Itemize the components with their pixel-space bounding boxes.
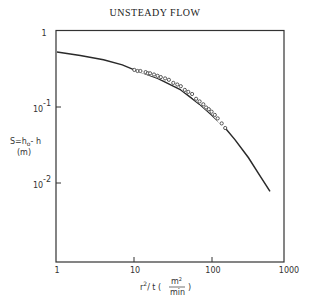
data-point xyxy=(167,78,170,81)
data-point xyxy=(224,126,227,129)
data-point xyxy=(220,122,223,125)
x-unit-denominator: min xyxy=(170,288,185,297)
x-tick-label: 10 xyxy=(130,266,140,275)
y-tick-label: 1 xyxy=(41,29,46,38)
theoretical-curve xyxy=(57,52,270,191)
data-point xyxy=(156,74,159,77)
x-unit-close: ) xyxy=(188,283,191,292)
data-point xyxy=(207,108,210,111)
chart-canvas: 1 10 100 1000 1 10 -1 10 -2 S=ho- h (m) … xyxy=(0,0,310,301)
x-tick-label: 1 xyxy=(54,266,59,275)
x-axis-label: r2/ t ( xyxy=(140,280,161,292)
data-point xyxy=(159,76,162,79)
x-tick-label: 100 xyxy=(205,266,220,275)
data-point xyxy=(172,81,175,84)
data-point xyxy=(191,92,194,95)
data-point xyxy=(183,88,186,91)
data-point xyxy=(210,110,213,113)
x-unit-numerator: m2 xyxy=(171,276,182,286)
data-point xyxy=(152,73,155,76)
plot-frame xyxy=(56,31,284,263)
data-point xyxy=(198,100,201,103)
data-point xyxy=(149,72,152,75)
data-point xyxy=(195,97,198,100)
observed-data-points xyxy=(133,68,227,129)
data-point xyxy=(176,83,179,86)
data-point xyxy=(213,113,216,116)
data-point xyxy=(133,68,136,71)
x-tick-label: 1000 xyxy=(279,266,299,275)
data-point xyxy=(202,103,205,106)
data-point xyxy=(179,85,182,88)
y-tick-label: 10 xyxy=(33,105,43,114)
y-axis-unit: (m) xyxy=(17,148,31,157)
y-tick-label: 10 xyxy=(33,181,43,190)
y-tick-label-exp: -2 xyxy=(43,175,51,184)
y-tick-label-exp: -1 xyxy=(43,99,51,108)
y-axis-label: S=ho- h xyxy=(10,137,41,147)
data-point xyxy=(187,90,190,93)
data-point xyxy=(216,117,219,120)
data-point xyxy=(139,69,142,72)
data-point xyxy=(164,77,167,80)
